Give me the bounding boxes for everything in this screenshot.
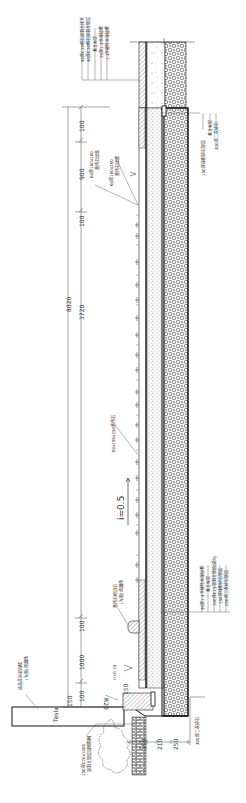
callout-top-edge-2-sub: 黄锈石烧面 <box>114 156 120 176</box>
dim-bottom-3: 150 <box>66 696 73 707</box>
callout-top-edge-1-sub: 黄锈石烧面 <box>94 150 100 170</box>
slope-label: i=0.5 <box>116 496 126 520</box>
slope-arrow-icon <box>126 478 130 525</box>
layer-note-top-1: 50厚C20细石混凝土垫层 <box>85 17 91 62</box>
surface-ticks <box>136 215 139 555</box>
layer-note-top-4: 1:3干硬性水泥砂浆 <box>104 26 110 60</box>
dim-foot-1: 250 <box>172 739 179 750</box>
foot-note: 300厚二灰碎石 <box>194 717 200 745</box>
ramp-section <box>139 106 188 716</box>
dim-middle: 3720 <box>78 305 85 320</box>
upper-layers <box>130 38 195 108</box>
dim-top-3: 100 <box>78 216 85 227</box>
dim-foot-2: 210 <box>156 739 163 750</box>
dim-step: 150 <box>122 684 129 695</box>
dim-bottom-1: 100 <box>78 621 85 632</box>
radius-label: R20 <box>103 698 110 710</box>
dim-overall: 8020 <box>65 297 72 312</box>
dim-top-2: 900 <box>78 169 85 180</box>
layer-note-right-top-0: 150厚级配碎石垫层 <box>200 140 206 176</box>
dim-bottom-2: 1000 <box>78 655 85 670</box>
layer-note-right-bottom-4: 200厚二灰碎石垫层 <box>223 570 229 606</box>
wall-block-label: Tesla <box>52 707 59 722</box>
callout-paver: 60x190x250黄锈石 <box>110 415 116 452</box>
base-note-2: 混凝土垫层加钢筋网 <box>86 736 92 772</box>
elevation-label: H+0.15 <box>112 665 117 680</box>
layer-note-right-top-2: 300厚二灰碎石 <box>213 122 219 150</box>
dim-top-1: 100 <box>78 121 85 132</box>
paver-marks <box>135 222 139 583</box>
dim-foot-3: 150 <box>140 739 147 750</box>
wall-note-2: (光面) 倒圆角 <box>23 656 29 680</box>
elevation-marker-icon <box>124 172 136 671</box>
dim-bottom-4: 100 <box>78 691 85 702</box>
callout-curb-sub: (光面) 倒圆角 <box>118 580 124 604</box>
shrub-outline <box>98 720 130 773</box>
